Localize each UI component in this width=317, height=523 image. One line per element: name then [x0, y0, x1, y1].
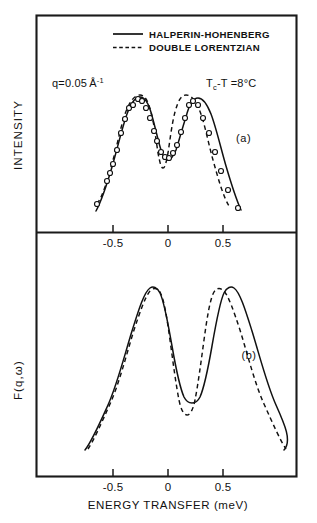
data-point — [183, 116, 188, 121]
data-point — [159, 150, 164, 155]
panel-a-ylabel: INTENSITY — [12, 100, 24, 170]
data-point — [105, 179, 110, 184]
panel-a-temperature-value: Tc-T =8°C — [206, 77, 256, 92]
legend-label-double-lorentzian: DOUBLE LORENTZIAN — [149, 42, 260, 53]
data-point — [179, 130, 184, 135]
legend-label-halperin-hohenberg: HALPERIN-HOHENBERG — [149, 29, 270, 40]
data-point — [152, 129, 157, 134]
panel-b-ticklabel-neg05: -0.5 — [103, 481, 124, 493]
panel-a-ticklabel-pos05: 0.5 — [215, 237, 232, 249]
data-point — [171, 151, 176, 156]
data-point — [131, 103, 136, 108]
panel-b-ticklabel-zero: 0 — [165, 481, 172, 493]
panel-a: INTENSITY q=0.05Å-1 Tc-T =8°C (a) — [12, 76, 256, 249]
panel-b-xaxis: -0.5 0 0.5 — [103, 469, 232, 493]
data-point — [236, 206, 241, 211]
data-point — [167, 156, 172, 161]
data-point — [144, 106, 149, 111]
panel-a-annotation-temperature: Tc-T =8°C — [206, 77, 256, 92]
panel-a-tag: (a) — [236, 132, 251, 144]
xaxis-label: ENERGY TRANSFER (meV) — [88, 499, 248, 511]
panel-b-ylabel: F(q,ω) — [12, 360, 24, 400]
data-point — [108, 171, 113, 176]
data-point — [207, 131, 212, 136]
data-point — [201, 116, 206, 121]
data-point — [219, 169, 224, 174]
two-panel-figure: HALPERIN-HOHENBERG DOUBLE LORENTZIAN INT… — [0, 0, 317, 523]
panel-a-xaxis: -0.5 0 0.5 — [103, 225, 232, 249]
data-point — [175, 143, 180, 148]
data-point — [148, 116, 153, 121]
data-point — [196, 103, 201, 108]
data-point — [140, 99, 145, 104]
figure-container: HALPERIN-HOHENBERG DOUBLE LORENTZIAN INT… — [0, 0, 317, 523]
data-point — [155, 139, 160, 144]
data-point — [111, 162, 116, 167]
data-point — [213, 150, 218, 155]
data-point — [191, 99, 196, 104]
panel-a-ticklabel-zero: 0 — [165, 237, 172, 249]
data-point — [187, 103, 192, 108]
panel-b-curve-double-lorentzian — [88, 289, 286, 450]
data-point — [123, 117, 128, 122]
panel-a-annotation-q: q=0.05Å-1 — [52, 76, 104, 89]
data-point — [95, 202, 100, 207]
panel-a-q-value: q=0.05Å-1 — [52, 76, 104, 89]
data-point — [115, 148, 120, 153]
data-point — [226, 188, 231, 193]
data-point — [119, 131, 124, 136]
legend: HALPERIN-HOHENBERG DOUBLE LORENTZIAN — [113, 29, 270, 54]
panel-b-ticklabel-pos05: 0.5 — [215, 481, 232, 493]
panel-b-curve-halperin-hohenberg — [85, 287, 288, 450]
panel-a-ticklabel-neg05: -0.5 — [103, 237, 124, 249]
